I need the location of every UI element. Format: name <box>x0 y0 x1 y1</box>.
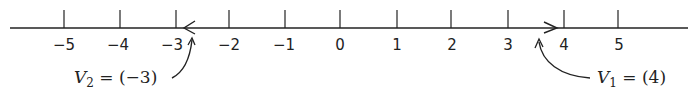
tick-label: −1 <box>273 36 295 54</box>
number-line-diagram: −5 −4 −3 −2 −1 0 1 2 3 4 5 V2 = (−3) V1 … <box>0 0 697 100</box>
tick-label: −5 <box>53 36 75 54</box>
v1-annotation: V1 = (4) <box>597 67 666 90</box>
tick-label: 0 <box>335 36 345 54</box>
tick-labels: −5 −4 −3 −2 −1 0 1 2 3 4 5 <box>53 36 624 54</box>
v1-equals: = <box>617 67 642 87</box>
v2-value: (−3) <box>119 67 157 87</box>
v2-annotation: V2 = (−3) <box>74 67 157 90</box>
v1-value: (4) <box>642 67 666 87</box>
tick-label: −4 <box>107 36 129 54</box>
v2-subscript: 2 <box>86 76 94 90</box>
tick-label: 3 <box>503 36 513 54</box>
ticks <box>64 10 618 28</box>
tick-label: 5 <box>614 36 624 54</box>
tick-label: 1 <box>392 36 402 54</box>
v1-subscript: 1 <box>609 76 617 90</box>
v2-equals: = <box>94 67 119 87</box>
tick-label: −2 <box>218 36 240 54</box>
tick-label: −3 <box>161 36 183 54</box>
tick-label: 4 <box>559 36 569 54</box>
tick-label: 2 <box>447 36 457 54</box>
